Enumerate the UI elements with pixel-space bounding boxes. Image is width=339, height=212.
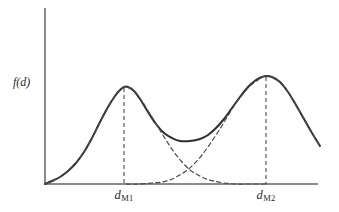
plot-canvas: [0, 0, 339, 212]
curve-1: [45, 87, 268, 185]
axes-group: [45, 8, 318, 184]
y-axis-label: f(d): [13, 76, 30, 88]
curve-0: [45, 76, 320, 184]
droplines-group: [124, 77, 266, 184]
distance-distribution-figure: f(d) dM1 dM2: [0, 0, 339, 212]
series-group: [45, 76, 320, 184]
curve-2: [126, 76, 320, 184]
x-tick-label-dm2: dM2: [257, 189, 276, 203]
x-tick-subscript-dm1: M1: [121, 193, 134, 203]
x-tick-subscript-dm2: M2: [263, 193, 276, 203]
x-tick-label-dm1: dM1: [115, 189, 134, 203]
